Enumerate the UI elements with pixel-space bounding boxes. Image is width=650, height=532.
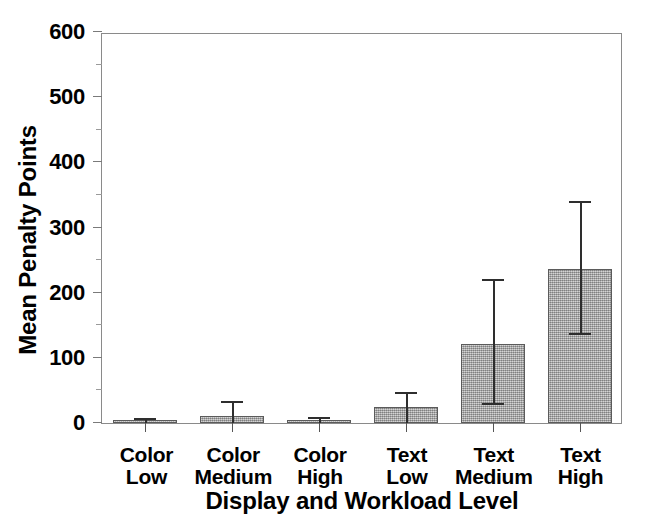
- error-bar-cap-upper: [569, 201, 591, 203]
- error-bar-cap-upper: [134, 418, 156, 420]
- y-tick: 600: [93, 31, 102, 32]
- y-tick: 0: [93, 422, 102, 423]
- error-bar-cap-upper: [395, 392, 417, 394]
- y-minor-tick: [96, 389, 102, 390]
- x-tick: ColorHigh: [319, 423, 320, 432]
- x-tick: ColorMedium: [232, 423, 233, 432]
- y-tick: 200: [93, 292, 102, 293]
- y-tick: 400: [93, 161, 102, 162]
- y-tick-label: 500: [49, 84, 85, 110]
- error-bar: [580, 203, 582, 335]
- x-tick-label: TextHigh: [558, 444, 603, 489]
- x-tick: ColorLow: [145, 423, 146, 432]
- error-bar: [493, 281, 495, 405]
- x-tick-label: ColorHigh: [293, 444, 346, 489]
- error-bar: [232, 403, 234, 423]
- y-tick: 300: [93, 227, 102, 228]
- penalty-points-bar-chart: Mean Penalty Points 0100200300400500600 …: [0, 0, 650, 532]
- x-tick-label: ColorMedium: [194, 444, 272, 489]
- y-tick-label: 0: [73, 410, 85, 436]
- y-minor-tick: [96, 129, 102, 130]
- x-axis-title: Display and Workload Level: [101, 487, 623, 515]
- y-minor-tick: [96, 324, 102, 325]
- x-tick-label: TextMedium: [455, 444, 533, 489]
- y-minor-tick: [96, 194, 102, 195]
- y-minor-tick: [96, 259, 102, 260]
- x-tick-label: ColorLow: [120, 444, 173, 489]
- error-bar-cap-lower: [482, 403, 504, 405]
- y-axis-title: Mean Penalty Points: [6, 20, 50, 460]
- x-tick: TextMedium: [493, 423, 494, 432]
- error-bar-cap-upper: [221, 401, 243, 403]
- y-tick-label: 100: [49, 345, 85, 371]
- error-bar-cap-lower: [569, 333, 591, 335]
- y-tick-label: 200: [49, 280, 85, 306]
- y-tick-label: 600: [49, 19, 85, 45]
- x-tick: TextHigh: [580, 423, 581, 432]
- y-tick-label: 300: [49, 215, 85, 241]
- x-tick: TextLow: [406, 423, 407, 432]
- error-bar-cap-upper: [308, 417, 330, 419]
- y-tick-label: 400: [49, 149, 85, 175]
- y-minor-tick: [96, 64, 102, 65]
- plot-area: 0100200300400500600 ColorLowColorMediumC…: [101, 33, 622, 424]
- x-tick-label: TextLow: [386, 444, 427, 489]
- y-tick: 100: [93, 357, 102, 358]
- error-bar-cap-upper: [482, 279, 504, 281]
- error-bar: [406, 394, 408, 423]
- y-tick: 500: [93, 96, 102, 97]
